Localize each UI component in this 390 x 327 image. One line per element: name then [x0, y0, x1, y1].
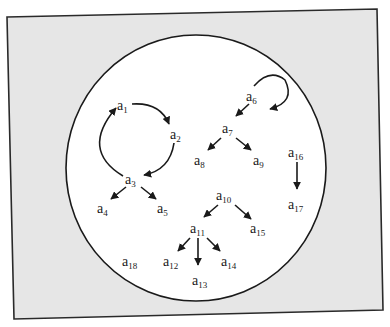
directed-graph-figure: a1 a2 a3 a4 a5 a6 a7 a8 a9 a10 a11 a12 a… [0, 0, 390, 327]
set-boundary-circle [66, 35, 326, 301]
